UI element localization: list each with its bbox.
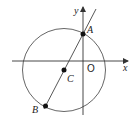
geometry-diagram: y x O A B C [0, 0, 136, 123]
point-c-label: C [67, 73, 74, 84]
point-b-label: B [32, 104, 38, 115]
point-b [43, 104, 48, 109]
point-a-label: A [86, 24, 94, 35]
origin-label: O [87, 63, 95, 74]
point-c [62, 68, 67, 73]
x-axis-label: x [122, 62, 128, 73]
y-axis-label: y [73, 5, 79, 16]
point-a [81, 32, 86, 37]
